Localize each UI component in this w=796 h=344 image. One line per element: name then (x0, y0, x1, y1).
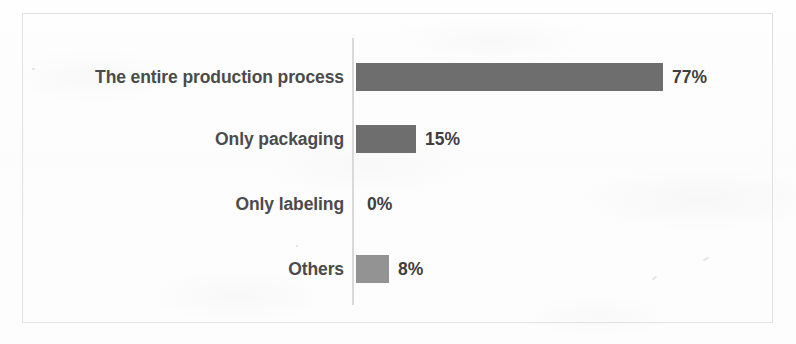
category-label-others: Others (24, 259, 344, 280)
bar-entire-production-process (356, 63, 663, 91)
value-label-only-labeling: 0% (367, 190, 392, 218)
bar-only-packaging (356, 125, 416, 153)
bar-group-only-labeling: 0% (356, 190, 392, 218)
chart-page: The entire production process 77% Only p… (0, 0, 796, 344)
bar-row: Others 8% (23, 255, 774, 283)
value-label-entire-production-process: 77% (672, 63, 707, 91)
bar-group-entire-production-process: 77% (356, 63, 707, 91)
bar-row: Only packaging 15% (23, 125, 774, 153)
category-label-only-packaging: Only packaging (24, 129, 344, 150)
bar-group-others: 8% (356, 255, 423, 283)
bar-group-only-packaging: 15% (356, 125, 460, 153)
bar-others (356, 255, 389, 283)
plot-area: The entire production process 77% Only p… (23, 14, 774, 324)
category-label-only-labeling: Only labeling (24, 194, 344, 215)
value-label-only-packaging: 15% (425, 125, 460, 153)
category-label-entire-production-process: The entire production process (24, 67, 344, 88)
bar-row: The entire production process 77% (23, 63, 774, 91)
chart-frame: The entire production process 77% Only p… (22, 13, 773, 323)
value-label-others: 8% (398, 255, 423, 283)
bar-row: Only labeling 0% (23, 190, 774, 218)
